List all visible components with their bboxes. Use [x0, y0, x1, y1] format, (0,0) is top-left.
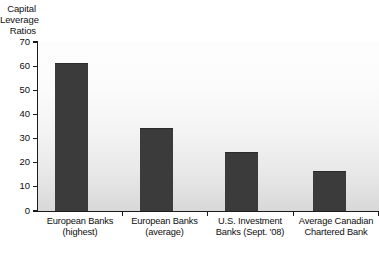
y-axis-tick [33, 90, 37, 91]
category-label-line-1: Average Canadian [293, 216, 379, 227]
x-axis-category-label: U.S. InvestmentBanks (Sept. '08) [207, 216, 293, 239]
category-label-line-2: Chartered Bank [293, 227, 379, 238]
x-axis-category-label: European Banks(highest) [38, 216, 122, 239]
category-label-line-1: U.S. Investment [207, 216, 293, 227]
y-axis-tick [33, 210, 37, 211]
y-axis-tick-label: 20 [6, 157, 30, 167]
x-axis-category-label: European Banks(average) [122, 216, 207, 239]
bar [55, 63, 88, 211]
category-label-line-2: Banks (Sept. '08) [207, 227, 293, 238]
bar [140, 128, 173, 211]
y-axis-tick-label: 30 [6, 133, 30, 143]
y-axis-tick-label: 60 [6, 61, 30, 71]
y-axis-tick-label: 70 [6, 37, 30, 47]
y-axis-tick [33, 186, 37, 187]
capital-leverage-ratios-chart: Capital Leverage Ratios 706050403020100 … [0, 0, 379, 256]
y-axis-tick [33, 138, 37, 139]
y-axis-title-line-1: Capital [7, 3, 36, 14]
y-axis-tick-label: 0 [6, 206, 30, 216]
category-label-line-1: European Banks [38, 216, 122, 227]
y-axis-title: Capital Leverage Ratios [0, 3, 36, 37]
plot-area [38, 42, 379, 211]
x-axis-category-label: Average CanadianChartered Bank [293, 216, 379, 239]
y-axis-tick [33, 114, 37, 115]
y-axis-title-line-3: Ratios [10, 25, 36, 36]
y-axis-tick [33, 162, 37, 163]
category-label-line-1: European Banks [122, 216, 207, 227]
y-axis-tick [33, 66, 37, 67]
category-label-line-2: (average) [122, 227, 207, 238]
y-axis-title-line-2: Leverage [0, 14, 39, 25]
y-axis-line [37, 41, 38, 212]
y-axis-tick-label: 10 [6, 181, 30, 191]
bar [225, 152, 258, 211]
y-axis-tick-label: 50 [6, 85, 30, 95]
y-axis-tick [33, 41, 37, 42]
y-axis-tick-label: 40 [6, 109, 30, 119]
bar [313, 171, 346, 211]
category-label-line-2: (highest) [38, 227, 122, 238]
